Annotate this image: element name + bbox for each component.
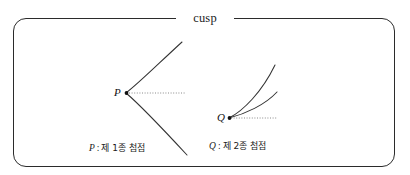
figure-page: cusp P Q P:제 1종 첨점 Q:제 2종 첨점 xyxy=(0,0,410,175)
caption-q-colon: : xyxy=(216,141,223,151)
caption-q-text: 제 2종 첨점 xyxy=(223,141,266,151)
caption-q-symbol: Q xyxy=(209,141,216,151)
point-marker-p xyxy=(125,91,129,95)
point-label-q: Q xyxy=(217,112,225,123)
caption-p-symbol: P xyxy=(89,143,95,153)
caption-q: Q:제 2종 첨점 xyxy=(209,140,266,152)
curve-p-upper-branch xyxy=(126,42,182,93)
caption-p-text: 제 1종 첨점 xyxy=(101,143,144,153)
point-marker-q xyxy=(228,116,232,120)
cusp-diagram xyxy=(0,0,410,175)
point-label-p: P xyxy=(114,87,121,98)
caption-p: P:제 1종 첨점 xyxy=(89,142,145,154)
